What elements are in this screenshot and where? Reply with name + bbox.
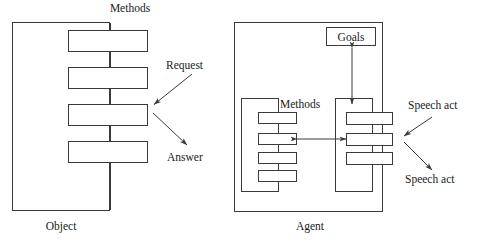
agent-method-box-2 <box>259 134 297 145</box>
agent-action-box-2 <box>347 134 393 146</box>
agent-methods-label: Methods <box>280 99 320 111</box>
object-methods-label: Methods <box>110 3 150 15</box>
answer-arrow <box>153 113 187 145</box>
speech-act-in-label: Speech act <box>408 100 458 112</box>
diagram-vector-layer <box>0 0 479 242</box>
object-method-box-2 <box>69 68 148 89</box>
answer-label: Answer <box>167 152 203 164</box>
object-method-box-1 <box>69 31 148 52</box>
diagram-canvas: Methods Object Request Answer Goals Meth… <box>0 0 479 242</box>
agent-method-box-1 <box>259 113 297 124</box>
agent-action-box-3 <box>347 153 393 165</box>
agent-method-box-3 <box>259 153 297 164</box>
goals-label: Goals <box>326 28 376 46</box>
speech-act-out-arrow <box>404 142 432 170</box>
agent-caption: Agent <box>296 221 324 233</box>
speech-act-in-arrow <box>404 117 432 136</box>
object-method-box-4 <box>69 142 148 163</box>
request-label: Request <box>166 60 203 72</box>
request-arrow <box>154 74 192 105</box>
agent-action-box-1 <box>347 113 393 125</box>
object-method-box-3 <box>69 105 148 126</box>
agent-method-box-4 <box>259 171 297 182</box>
speech-act-out-label: Speech act <box>405 174 455 186</box>
object-caption: Object <box>46 221 77 233</box>
